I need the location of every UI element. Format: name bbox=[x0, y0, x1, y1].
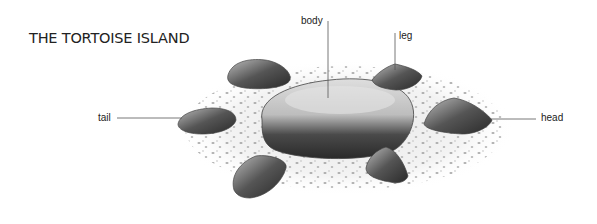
label-body: body bbox=[301, 15, 323, 26]
leg-rock-top-left bbox=[228, 60, 291, 89]
body-rock bbox=[262, 79, 414, 159]
label-head: head bbox=[541, 112, 563, 123]
label-tail: tail bbox=[98, 112, 111, 123]
tortoise-island-diagram: THE TORTOISE ISLAND body leg tail head bbox=[0, 0, 597, 224]
label-leg: leg bbox=[399, 30, 412, 41]
diagram-title: THE TORTOISE ISLAND bbox=[29, 30, 189, 46]
